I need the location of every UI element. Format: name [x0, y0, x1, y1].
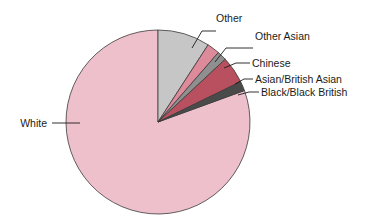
pie-label-chinese: Chinese — [252, 57, 291, 69]
pie-chart: Other Other Asian Chinese Asian/British … — [0, 0, 366, 221]
pie-label-asian-british-asian: Asian/British Asian — [255, 73, 342, 85]
pie-label-other: Other — [216, 12, 243, 24]
pie-label-white: White — [20, 117, 47, 129]
chart-canvas: Other Other Asian Chinese Asian/British … — [0, 0, 366, 221]
pie-label-black-black-british: Black/Black British — [261, 86, 348, 98]
pie-slice-group — [66, 30, 250, 214]
pie-label-other-asian: Other Asian — [255, 30, 310, 42]
